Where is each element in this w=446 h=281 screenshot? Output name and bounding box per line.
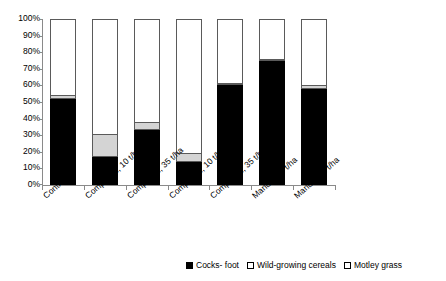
legend-label: Wild-growing cereals [257,260,336,270]
x-axis-tick [168,186,169,190]
x-axis-tick [335,186,336,190]
legend-label: Motley grass [354,260,402,270]
x-axis-tick [126,186,127,190]
legend-item: Wild-growing cereals [247,260,336,270]
x-axis-category-label: Control [41,175,68,201]
stacked-bar-chart: 0%10%20%30%40%50%60%70%80%90%100% Contro… [0,0,446,281]
legend-swatch-icon [247,262,254,269]
legend-item: Cocks- foot [186,260,239,270]
x-axis-tick [209,186,210,190]
x-axis-labels: ControlCompost 1, 10 t/haCompost 1, 35 t… [0,0,446,281]
legend-item: Motley grass [344,260,402,270]
legend-swatch-icon [344,262,351,269]
x-axis-tick [42,186,43,190]
legend-label: Cocks- foot [196,260,239,270]
legend-swatch-icon [186,262,193,269]
chart-legend: Cocks- footWild-growing cerealsMotley gr… [186,260,402,270]
x-axis-tick [251,186,252,190]
x-axis-tick [84,186,85,190]
x-axis-tick [293,186,294,190]
